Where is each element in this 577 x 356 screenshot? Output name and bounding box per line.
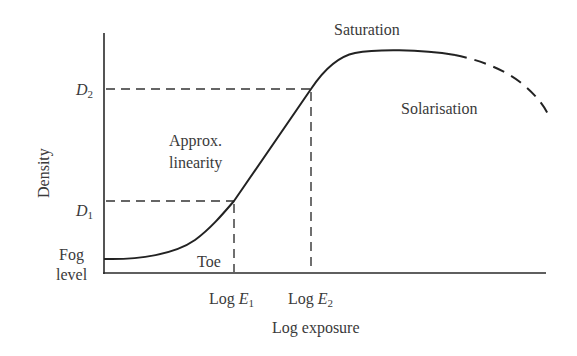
approx-label-line1: Approx. (169, 130, 222, 152)
d2-tick-label: D2 (76, 82, 93, 98)
d1-symbol: D (76, 202, 88, 219)
density-curve (104, 50, 455, 259)
d2-subscript: 2 (88, 88, 94, 100)
loge1-prefix: Log (209, 290, 239, 307)
approx-label-line2: linearity (169, 152, 222, 174)
loge1-symbol: E (239, 290, 249, 307)
x-axis-label: Log exposure (272, 320, 360, 336)
loge1-tick-label: Log E1 (209, 291, 254, 307)
loge2-symbol: E (318, 290, 328, 307)
fog-label-line1: Fog (56, 245, 87, 265)
saturation-label: Saturation (334, 22, 400, 38)
solarisation-label: Solarisation (401, 101, 477, 117)
fog-label-line2: level (56, 265, 87, 285)
y-axis-label: Density (36, 148, 52, 198)
toe-label: Toe (197, 254, 221, 270)
d1-subscript: 1 (88, 209, 94, 221)
approx-linearity-label: Approx. linearity (169, 130, 222, 174)
loge1-subscript: 1 (249, 297, 255, 309)
loge2-tick-label: Log E2 (288, 291, 333, 307)
loge2-prefix: Log (288, 290, 318, 307)
loge2-subscript: 2 (328, 297, 334, 309)
fog-level-label: Fog level (56, 245, 87, 285)
d2-symbol: D (76, 81, 88, 98)
d1-tick-label: D1 (76, 203, 93, 219)
